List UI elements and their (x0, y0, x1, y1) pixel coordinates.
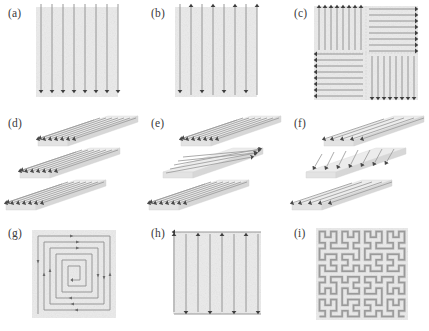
panel-i: (i) (286, 220, 429, 330)
panel-e-label: (e) (151, 117, 164, 129)
panel-h: (h) (143, 220, 286, 330)
panel-c-label: (c) (294, 7, 307, 19)
panel-d-label: (d) (8, 117, 22, 129)
panel-f-layer-bottom (292, 180, 392, 210)
panel-f-diagram (286, 110, 429, 221)
panel-h-label: (h) (151, 227, 165, 239)
panel-b-label: (b) (151, 7, 165, 19)
panel-e-layer-middle (163, 148, 263, 178)
panel-f-layer-top (324, 116, 424, 146)
panel-e-diagram (143, 110, 286, 221)
panel-d-layer-bottom (6, 180, 106, 210)
scan-strategy-figure: (a) (0, 0, 429, 331)
panel-f-label: (f) (294, 117, 306, 129)
panel-a: (a) (0, 0, 143, 110)
panel-f-layer-middle (306, 148, 406, 178)
panel-f: (f) (286, 110, 429, 220)
panel-i-label: (i) (294, 227, 305, 239)
panel-i-diagram (286, 220, 429, 331)
panel-e: (e) (143, 110, 286, 220)
panel-c-diagram (286, 0, 429, 111)
panel-b: (b) (143, 0, 286, 110)
panel-g: (g) (0, 220, 143, 330)
panel-a-label: (a) (8, 7, 21, 19)
panel-c: (c) (286, 0, 429, 110)
panel-d-layer-top (38, 116, 138, 146)
panel-d-layer-middle (20, 148, 120, 178)
panel-e-layer-bottom (149, 180, 249, 210)
panel-g-label: (g) (8, 227, 22, 239)
panel-d: (d) (0, 110, 143, 220)
panel-e-layer-top (181, 116, 281, 146)
panel-a-diagram (0, 0, 143, 111)
